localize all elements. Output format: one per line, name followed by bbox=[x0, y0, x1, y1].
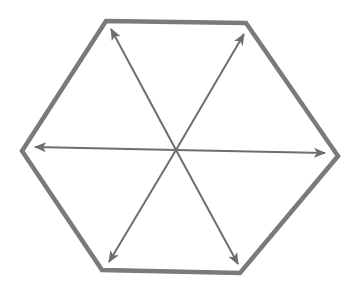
arrow-up-left bbox=[111, 29, 176, 150]
arrow-up-right bbox=[176, 34, 244, 150]
arrow-right bbox=[176, 150, 325, 153]
arrow-left bbox=[35, 147, 176, 150]
hexagon-arrows-diagram bbox=[0, 0, 360, 296]
arrow-down-left bbox=[109, 150, 176, 262]
arrow-down-right bbox=[176, 150, 238, 264]
